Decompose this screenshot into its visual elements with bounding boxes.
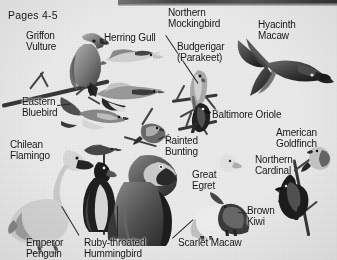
label-chilean-flamingo: Chilean Flamingo <box>10 140 50 161</box>
label-emperor-penguin: Emperor Penguin <box>26 238 63 259</box>
label-eastern-bluebird: Eastern Bluebird <box>22 97 58 118</box>
ruby-throated-hummingbird-illustration <box>82 140 122 162</box>
leader-ruby-throated-hummingbird <box>117 206 118 236</box>
label-northern-cardinal: Northern Cardinal <box>255 155 293 176</box>
book-page-spread: Pages 4-5 Griffon Vulture Griffon Vultur… <box>0 0 337 260</box>
eastern-bluebird-illustration <box>57 93 129 133</box>
label-painted-bunting: Painted Bunting <box>165 136 198 157</box>
page-caption: Pages 4-5 <box>8 10 58 21</box>
label-american-goldfinch: American Goldfinch <box>276 128 317 149</box>
northern-cardinal-illustration <box>272 172 312 220</box>
page-top-bleed-strip <box>118 0 337 6</box>
label-ruby-throated-hummingbird: Ruby-throated Hummingbird <box>84 238 145 259</box>
vulture-twig-2 <box>40 72 49 87</box>
label-herring-gull: Herring Gull <box>104 33 156 44</box>
label-hyacinth-macaw: Hyacinth Macaw <box>258 20 296 41</box>
label-scarlet-macaw: Scarlet Macaw <box>178 238 242 249</box>
herring-gull-illustration <box>99 44 165 70</box>
label-budgerigar: Budgerigar (Parakeet) <box>177 42 224 63</box>
label-northern-mockingbird: Northern Mockingbird <box>168 8 220 29</box>
hyacinth-macaw-illustration <box>228 34 336 116</box>
label-griffon-vulture-text: Griffon Vulture <box>26 31 56 52</box>
label-brown-kiwi: Brown Kiwi <box>247 206 275 227</box>
label-great-egret: Great Egret <box>192 170 216 191</box>
label-baltimore-oriole: Baltimore Oriole <box>212 110 281 121</box>
